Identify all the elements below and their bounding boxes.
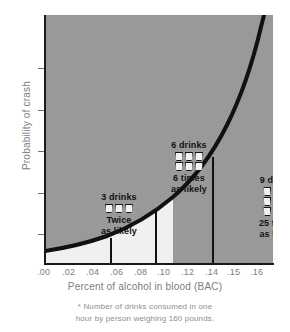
cup-row (263, 197, 273, 206)
x-tick-label-006: .06 (110, 267, 123, 277)
annotation-6-drinks-risk-line2: as likely (171, 184, 207, 194)
annotation-6-drinks-risk-line1: 6 times (171, 173, 207, 183)
footnote-line-2: hour by person weighing 160 pounds. (0, 313, 290, 325)
annotation-6-drinks-cups (171, 152, 207, 171)
x-tick-label-014: .14 (205, 267, 218, 277)
y-axis-label: Probability of crash (21, 56, 32, 196)
x-tick-label-012: .12 (181, 267, 194, 277)
footnote: * Number of drinks consumed in one hour … (0, 301, 290, 325)
x-axis-label: Percent of alcohol in blood (BAC) (0, 281, 290, 292)
plot-area: 3 drinks Twice as likely 6 drinks (45, 15, 273, 263)
y-tick-mark-15 (38, 151, 44, 152)
cup-row (175, 152, 203, 161)
x-tick-label-016: .16 (250, 267, 263, 277)
annotation-6-drinks: 6 drinks 6 times as likely (171, 140, 207, 194)
x-tick-label-015: .15 (227, 267, 240, 277)
y-tick-mark-10 (38, 193, 44, 194)
annotation-3-drinks-cups (101, 204, 137, 213)
x-tick-label-000: .00 (37, 267, 50, 277)
cup-icon (175, 152, 183, 161)
annotation-3-drinks-risk-line2: as likely (101, 226, 137, 236)
annotation-3-drinks: 3 drinks Twice as likely (101, 192, 137, 236)
cup-icon (263, 197, 271, 206)
cup-icon (125, 204, 133, 213)
annotation-9-drinks-cups (259, 187, 273, 216)
annotation-3-drinks-title: 3 drinks (101, 192, 137, 202)
footnote-line-1: * Number of drinks consumed in one (0, 301, 290, 313)
x-axis-line (44, 263, 274, 265)
cup-row (263, 207, 273, 216)
annotation-9-drinks-risk-line2: as likely (259, 229, 273, 239)
x-tick-label-002: .02 (62, 267, 75, 277)
bac-crash-probability-chart: 3 drinks Twice as likely 6 drinks (0, 0, 290, 332)
cup-icon (185, 152, 193, 161)
cup-icon (263, 187, 271, 196)
cup-row (175, 162, 203, 171)
cup-icon (115, 204, 123, 213)
y-axis-line (44, 15, 46, 265)
annotation-9-drinks-title: 9 drinks (259, 175, 273, 185)
x-tick-label-004: .04 (86, 267, 99, 277)
annotation-9-drinks-risk-line1: 25 times (259, 218, 273, 228)
cup-icon (175, 162, 183, 171)
x-tick-label-010: .10 (157, 267, 170, 277)
y-tick-mark-5 (38, 234, 44, 235)
cup-icon (263, 207, 271, 216)
cup-row (263, 187, 273, 196)
cup-row (105, 204, 133, 213)
cup-icon (105, 204, 113, 213)
cup-icon (185, 162, 193, 171)
annotation-9-drinks: 9 drinks 25 times as (259, 175, 273, 239)
x-tick-label-008: .08 (134, 267, 147, 277)
annotation-3-drinks-risk-line1: Twice (101, 215, 137, 225)
curve-svg (45, 15, 273, 263)
y-tick-mark-20 (38, 110, 44, 111)
cup-icon (195, 152, 203, 161)
cup-icon (195, 162, 203, 171)
y-tick-mark-25 (38, 68, 44, 69)
under-curve-fill-right (173, 15, 273, 263)
annotation-6-drinks-title: 6 drinks (171, 140, 207, 150)
